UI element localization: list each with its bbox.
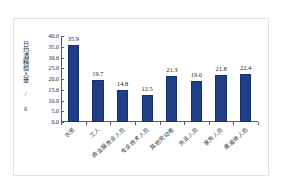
y-axis-tick-label: 10.0 (49, 98, 60, 104)
y-axis-tick-label: 40.0 (49, 33, 60, 39)
x-axis-tick-mark (258, 122, 259, 125)
y-axis-tick-mark (61, 36, 64, 37)
y-axis-tick-mark (61, 47, 64, 48)
y-axis-tick-label: 30.0 (49, 55, 60, 61)
y-axis-tick-label: 5.0 (52, 108, 60, 114)
bar-value-label: 12.5 (142, 86, 153, 92)
x-axis-tick-mark (184, 122, 185, 125)
y-axis-tick-labels: 0.05.010.015.020.025.030.035.040.0 (34, 36, 59, 122)
y-axis-tick-mark (61, 58, 64, 59)
y-axis-tick-label: 25.0 (49, 65, 60, 71)
bar-value-label: 19.0 (191, 72, 202, 78)
x-axis-tick-mark (233, 122, 234, 125)
bar-value-label: 35.9 (68, 36, 79, 42)
y-axis-tick-label: 0.0 (52, 119, 60, 125)
x-axis-tick-mark (135, 122, 136, 125)
x-axis-tick-mark (110, 122, 111, 125)
y-axis-tick-mark (61, 101, 64, 102)
bar (117, 90, 128, 122)
y-axis-tick-label: 35.0 (49, 44, 60, 50)
y-axis-tick-mark (61, 79, 64, 80)
bar-value-label: 21.3 (166, 67, 177, 73)
y-axis-tick-mark (61, 68, 64, 69)
bar (215, 75, 226, 122)
bar (191, 81, 202, 122)
bar (240, 74, 251, 122)
axis-lines (61, 36, 258, 122)
x-axis-tick-mark (86, 122, 87, 125)
x-axis-tick-mark (160, 122, 161, 125)
bar-value-label: 19.7 (92, 71, 103, 77)
plot-area: 35.919.714.812.521.319.021.822.4 (61, 36, 258, 122)
bar-value-label: 14.8 (117, 81, 128, 87)
chart-figure: 日均酒精摄入量 / g 0.05.010.015.020.025.030.035… (0, 0, 284, 192)
bar-value-label: 21.8 (215, 66, 226, 72)
bar (92, 80, 103, 122)
bar-value-label: 22.4 (240, 65, 251, 71)
bar (166, 76, 177, 122)
y-axis-tick-mark (61, 90, 64, 91)
y-axis-tick-label: 15.0 (49, 87, 60, 93)
x-axis-tick-mark (209, 122, 210, 125)
y-axis-tick-mark (61, 111, 64, 112)
bar (68, 45, 79, 122)
bar (142, 95, 153, 122)
y-axis-tick-label: 20.0 (49, 76, 60, 82)
x-axis-tick-mark (61, 122, 62, 125)
y-axis-title: 日均酒精摄入量 / g (19, 28, 31, 124)
